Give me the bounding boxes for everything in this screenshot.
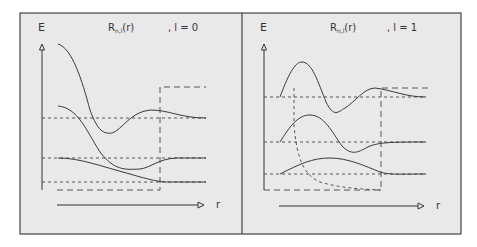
figure-background	[20, 13, 461, 234]
angular-momentum-label: , l = 0	[168, 22, 198, 33]
y-axis-label: E	[38, 21, 45, 34]
y-axis-label: E	[260, 21, 267, 34]
angular-momentum-label: , l = 1	[387, 22, 417, 33]
radial-wavefunction-figure: E Rn,l(r) , l = 0 r	[0, 0, 477, 247]
